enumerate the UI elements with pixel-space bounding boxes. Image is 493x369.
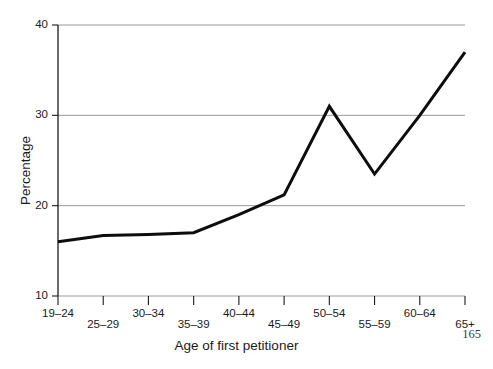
y-tick-label-40: 40 bbox=[20, 18, 48, 30]
x-tick-label-55-59: 55–59 bbox=[346, 318, 404, 330]
x-axis-title: Age of first petitioner bbox=[0, 338, 483, 353]
x-tick-label-35-39: 35–39 bbox=[165, 318, 223, 330]
chart-figure: 10203040 19–2425–2930–3435–3940–4445–495… bbox=[0, 0, 493, 369]
x-tick-mark-group bbox=[58, 296, 465, 305]
y-axis-title: Percentage bbox=[18, 136, 33, 205]
data-line-percentage bbox=[58, 52, 465, 242]
page-number: 165 bbox=[462, 327, 481, 342]
gridline-group bbox=[58, 25, 465, 296]
y-tick-label-30: 30 bbox=[20, 108, 48, 120]
data-series-group bbox=[58, 52, 465, 242]
y-tick-label-10: 10 bbox=[20, 289, 48, 301]
y-tick-mark-group bbox=[52, 25, 58, 296]
x-tick-label-25-29: 25–29 bbox=[74, 318, 132, 330]
x-tick-label-45-49: 45–49 bbox=[255, 318, 313, 330]
